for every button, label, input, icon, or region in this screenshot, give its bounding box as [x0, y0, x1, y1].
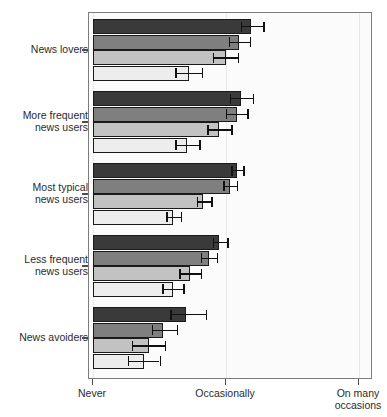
- y-axis-tick: [82, 121, 88, 122]
- bar-group: [89, 307, 371, 369]
- error-bar-cap-low: [226, 109, 227, 119]
- bar: [93, 122, 219, 137]
- error-bar: [229, 42, 250, 43]
- bar-group: [89, 235, 371, 297]
- bar: [93, 179, 230, 194]
- bar: [93, 19, 251, 34]
- bar: [93, 210, 173, 225]
- plot-area: [88, 12, 372, 379]
- error-bar-cap-low: [152, 325, 153, 335]
- error-bar: [213, 242, 228, 243]
- error-bar-cap-low: [213, 53, 214, 63]
- error-bar-cap-high: [211, 197, 212, 207]
- error-bar: [175, 73, 202, 74]
- bar: [93, 163, 237, 178]
- bar: [93, 35, 239, 50]
- error-bar-cap-low: [229, 37, 230, 47]
- error-bar-cap-low: [175, 140, 176, 150]
- error-bar-cap-low: [179, 269, 180, 279]
- x-axis-label: On many occasions: [313, 387, 387, 411]
- error-bar: [226, 114, 247, 115]
- error-bar-cap-low: [213, 238, 214, 248]
- bar: [93, 50, 226, 65]
- error-bar: [179, 273, 200, 274]
- error-bar: [207, 129, 231, 130]
- error-bar-cap-low: [223, 181, 224, 191]
- error-bar-cap-low: [241, 22, 242, 32]
- y-axis-tick: [82, 265, 88, 266]
- error-bar-cap-high: [202, 68, 203, 78]
- error-bar-cap-low: [197, 197, 198, 207]
- error-bar-cap-high: [165, 341, 166, 351]
- error-bar: [197, 201, 212, 202]
- error-bar-cap-low: [175, 68, 176, 78]
- y-axis-label: Less frequent news users: [24, 253, 88, 278]
- error-bar-cap-high: [253, 94, 254, 104]
- bar-group: [89, 19, 371, 81]
- error-bar: [152, 330, 177, 331]
- error-bar-cap-low: [128, 356, 129, 366]
- error-bar-cap-low: [231, 166, 232, 176]
- bar: [93, 107, 237, 122]
- bar: [93, 194, 203, 209]
- y-axis-label: News avoiders: [19, 331, 88, 344]
- error-bar-cap-low: [207, 125, 208, 135]
- error-bar: [128, 361, 160, 362]
- x-axis-tick: [225, 379, 226, 385]
- error-bar: [231, 170, 243, 171]
- error-bar-cap-low: [230, 94, 231, 104]
- bar-group: [89, 91, 371, 153]
- bar-group: [89, 163, 371, 225]
- x-axis-label: Occasionally: [180, 387, 270, 399]
- error-bar-cap-high: [181, 212, 182, 222]
- bar: [93, 251, 209, 266]
- error-bar-cap-low: [162, 284, 163, 294]
- bar: [93, 266, 190, 281]
- error-bar-cap-high: [183, 284, 184, 294]
- error-bar-cap-low: [201, 253, 202, 263]
- error-bar-cap-high: [217, 253, 218, 263]
- y-axis-label: Most typical news users: [33, 181, 88, 206]
- error-bar: [230, 98, 253, 99]
- x-axis-label: Never: [47, 387, 137, 399]
- error-bar: [175, 145, 199, 146]
- bar: [93, 282, 173, 297]
- error-bar-cap-high: [177, 325, 178, 335]
- bar: [93, 235, 219, 250]
- y-axis-label: More frequent news users: [23, 109, 88, 134]
- y-axis-tick: [82, 337, 88, 338]
- y-axis-tick: [82, 49, 88, 50]
- error-bar-cap-high: [206, 310, 207, 320]
- bar: [93, 138, 187, 153]
- error-bar-cap-high: [247, 109, 248, 119]
- x-axis-tick: [92, 379, 93, 385]
- error-bar: [162, 289, 183, 290]
- error-bar-cap-high: [243, 166, 244, 176]
- bar-chart: News loversMore frequent news usersMost …: [0, 0, 387, 417]
- error-bar-cap-high: [199, 140, 200, 150]
- error-bar-cap-low: [132, 341, 133, 351]
- y-axis-tick: [82, 193, 88, 194]
- error-bar: [170, 314, 206, 315]
- error-bar: [213, 57, 238, 58]
- error-bar: [166, 217, 181, 218]
- error-bar-cap-high: [263, 22, 264, 32]
- error-bar-cap-high: [250, 37, 251, 47]
- error-bar-cap-low: [166, 212, 167, 222]
- error-bar: [241, 26, 264, 27]
- error-bar-cap-high: [227, 238, 228, 248]
- error-bar: [223, 186, 236, 187]
- error-bar-cap-high: [238, 53, 239, 63]
- x-axis-tick: [358, 379, 359, 385]
- y-axis-label: News lovers: [31, 43, 88, 56]
- error-bar-cap-high: [160, 356, 161, 366]
- error-bar-cap-high: [231, 125, 232, 135]
- error-bar: [132, 345, 165, 346]
- bar: [93, 91, 241, 106]
- error-bar-cap-low: [170, 310, 171, 320]
- error-bar-cap-high: [201, 269, 202, 279]
- error-bar: [201, 258, 217, 259]
- bar: [93, 66, 189, 81]
- error-bar-cap-high: [237, 181, 238, 191]
